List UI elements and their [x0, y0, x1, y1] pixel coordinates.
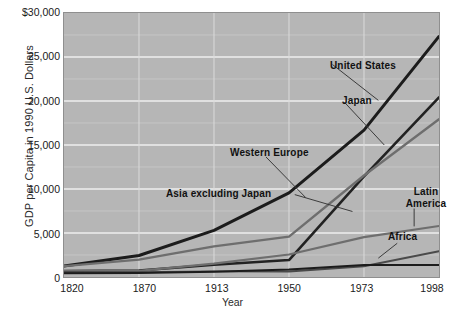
- annotation-asia-excluding-japan: Asia excluding Japan: [166, 188, 271, 200]
- annotation-western-europe: Western Europe: [230, 147, 309, 159]
- x-tick-label: 1820: [60, 282, 83, 294]
- annotation-africa: Africa: [388, 231, 417, 243]
- x-axis-title: Year: [0, 296, 465, 308]
- plot-svg: [64, 13, 439, 277]
- y-tick-label: 10,000: [2, 183, 60, 195]
- y-tick-label: 15,000: [2, 139, 60, 151]
- x-tick-label: 1998: [420, 282, 443, 294]
- x-tick-label: 1973: [350, 282, 373, 294]
- y-tick-label: $30,000: [2, 6, 60, 18]
- annotation-latin-america: Latin America: [396, 186, 456, 209]
- major-gridlines: [64, 57, 439, 233]
- y-axis-tick-labels: $30,000 25,000 20,000 15,000 10,000 5,00…: [0, 0, 60, 310]
- y-tick-label: 20,000: [2, 95, 60, 107]
- x-tick-label: 1870: [133, 282, 156, 294]
- leader-line: [378, 243, 397, 258]
- x-tick-label: 1950: [278, 282, 301, 294]
- leader-line: [266, 157, 306, 198]
- annotation-japan: Japan: [342, 95, 372, 107]
- plot-area: [63, 12, 440, 278]
- y-tick-label: 25,000: [2, 50, 60, 62]
- annotation-united-states: United States: [330, 60, 396, 72]
- chart-figure: GDP per Capita in 1990 U.S. Dollars $30,…: [0, 0, 465, 310]
- y-tick-label: 5,000: [2, 228, 60, 240]
- x-tick-label: 1913: [205, 282, 228, 294]
